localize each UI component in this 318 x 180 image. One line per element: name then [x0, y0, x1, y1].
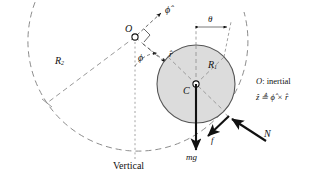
r-hat-vector	[143, 44, 166, 62]
point-o-marker	[132, 34, 138, 40]
label-weight-mg: mg	[186, 152, 197, 162]
label-point-c: C	[183, 85, 190, 96]
legend-inertial-text: : inertial	[262, 76, 291, 86]
phi-hat-vector	[137, 13, 161, 35]
label-friction-f: f	[211, 135, 214, 145]
label-vertical: Vertical	[113, 160, 144, 171]
label-normal-n: N	[264, 128, 271, 139]
label-angle-phi: ϕ	[138, 52, 143, 63]
diagram-svg	[0, 0, 318, 180]
right-angle-mark	[144, 29, 150, 42]
legend-zhat-definition: ẑ ≜ ϕ̂ × r̂	[256, 92, 288, 102]
legend-inertial-note: O: inertial	[256, 76, 291, 86]
label-r-hat: r̂	[169, 49, 173, 59]
radius-r2-line	[47, 37, 135, 103]
label-radius-r2: R2	[55, 55, 64, 66]
label-angle-theta: θ	[208, 14, 212, 24]
label-radius-r1: R1	[208, 59, 217, 70]
figure-canvas: O ϕ̂ r̂ ϕ θ R2 R1 C mg f N Vertical O: i…	[0, 0, 318, 180]
normal-force-vector	[232, 119, 266, 141]
label-point-o: O	[125, 23, 132, 34]
label-phi-hat: ϕ̂	[165, 4, 170, 15]
